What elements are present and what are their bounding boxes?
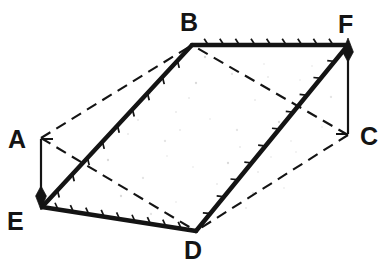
vertex-label-e: E bbox=[7, 209, 24, 234]
vertex-label-d: D bbox=[184, 238, 202, 263]
speckle-dot bbox=[239, 146, 241, 148]
speckle-dot bbox=[175, 111, 177, 113]
hatch-tick bbox=[272, 128, 278, 129]
speckle-dot bbox=[290, 140, 292, 142]
speckle-dot bbox=[257, 171, 259, 173]
speckle-dot bbox=[150, 213, 152, 215]
vector-arrows-group bbox=[36, 38, 354, 210]
speckle-dot bbox=[142, 177, 144, 179]
hatch-tick bbox=[88, 159, 90, 165]
hatch-tick bbox=[217, 196, 223, 197]
hatch-tick bbox=[58, 191, 60, 197]
hatch-tick bbox=[178, 62, 180, 68]
speckle-dot bbox=[192, 166, 194, 168]
vertex-label-f: F bbox=[338, 12, 353, 37]
geometry-diagram: ABCDEF bbox=[0, 0, 389, 269]
speckle-dot bbox=[216, 183, 218, 185]
hatch-tick bbox=[148, 94, 150, 100]
speckle-dot bbox=[283, 187, 285, 189]
hatch-tick bbox=[118, 127, 120, 133]
edge-E-B bbox=[42, 45, 192, 207]
hatch-tick bbox=[258, 145, 264, 146]
speckle-dot bbox=[175, 201, 177, 203]
hatch-tick bbox=[244, 162, 250, 163]
speckle-dot bbox=[227, 162, 229, 164]
speckle-dot bbox=[137, 119, 139, 121]
vertex-label-a: A bbox=[8, 127, 26, 152]
solid-edges-group bbox=[42, 45, 348, 231]
hatch-tick bbox=[203, 213, 209, 214]
speckle-dot bbox=[188, 97, 190, 99]
speckle-dot bbox=[164, 140, 166, 142]
hatch-tick bbox=[327, 61, 333, 62]
speckle-dot bbox=[295, 151, 297, 153]
speckle-dot bbox=[299, 79, 301, 81]
speckle-dot bbox=[127, 133, 129, 135]
hatch-tick bbox=[103, 143, 105, 149]
edge-E-D bbox=[42, 207, 196, 231]
speckle-dot bbox=[179, 129, 181, 131]
speckle-dot bbox=[166, 155, 168, 157]
hatch-tick bbox=[300, 94, 306, 95]
speckle-dot bbox=[120, 195, 122, 197]
arrow-head bbox=[343, 38, 354, 62]
speckle-dot bbox=[278, 121, 280, 123]
speckle-dot bbox=[107, 159, 109, 161]
speckle-dot bbox=[254, 99, 256, 101]
hatch-tick bbox=[163, 78, 165, 84]
hatch-tick bbox=[286, 111, 292, 112]
edge-hatch-ticks-group bbox=[55, 39, 333, 228]
edge-D-F bbox=[196, 45, 348, 231]
edge-C-D bbox=[196, 135, 348, 231]
paper-speckle-noise bbox=[107, 56, 332, 220]
speckle-dot bbox=[195, 82, 197, 84]
speckle-dot bbox=[321, 126, 323, 128]
hatch-tick bbox=[313, 78, 319, 79]
hatch-tick bbox=[133, 110, 135, 116]
edge-C-B bbox=[192, 45, 348, 135]
speckle-dot bbox=[330, 96, 332, 98]
speckle-dot bbox=[311, 65, 313, 67]
speckle-dot bbox=[231, 73, 233, 75]
speckle-dot bbox=[263, 63, 265, 65]
speckle-dot bbox=[270, 156, 272, 158]
hatch-tick bbox=[231, 179, 237, 180]
speckle-dot bbox=[267, 76, 269, 78]
speckle-dot bbox=[245, 207, 247, 209]
arrow-C-to-F bbox=[343, 38, 354, 134]
dashed-edges-group bbox=[41, 45, 348, 231]
vertex-label-c: C bbox=[360, 124, 378, 149]
vertex-label-b: B bbox=[180, 10, 198, 35]
speckle-dot bbox=[204, 56, 206, 58]
speckle-dot bbox=[209, 118, 211, 120]
arrow-A-to-E bbox=[36, 139, 47, 210]
diagram-canvas bbox=[0, 0, 389, 269]
speckle-dot bbox=[236, 129, 238, 131]
hatch-tick bbox=[73, 175, 75, 181]
